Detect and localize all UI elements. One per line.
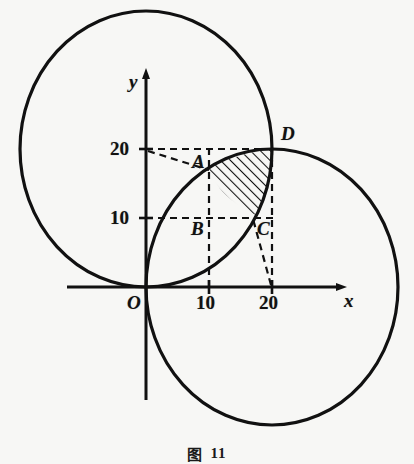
x-tick-label-20: 20 (259, 293, 278, 312)
caption-number: 11 (210, 445, 226, 462)
axes (67, 78, 337, 400)
figure-caption: 图11 (0, 443, 414, 464)
caption-symbol: 图 (187, 443, 203, 464)
shaded-lens-region (209, 149, 272, 216)
y-tick-label-20: 20 (110, 139, 129, 158)
y-tick-label-10: 10 (110, 208, 129, 227)
y-axis-label: y (129, 72, 137, 91)
geometry-diagram (0, 0, 414, 464)
point-label-D: D (281, 124, 295, 143)
x-axis-label: x (344, 291, 354, 310)
point-label-C: C (257, 219, 270, 238)
figure-container: y x O 10 20 10 20 A B C D 图11 (0, 0, 414, 464)
point-label-A: A (192, 152, 205, 171)
origin-label: O (127, 293, 141, 312)
x-tick-label-10: 10 (196, 293, 215, 312)
point-label-B: B (191, 219, 204, 238)
